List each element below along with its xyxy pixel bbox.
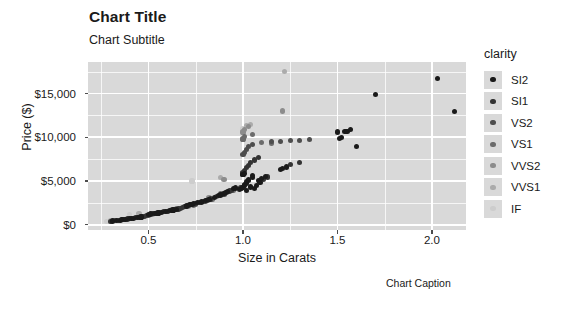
- legend-item-if[interactable]: IF: [484, 198, 562, 220]
- gridline-major-horizontal: [88, 136, 466, 138]
- data-point: [218, 192, 223, 197]
- legend-key-swatch: [484, 178, 502, 196]
- legend-key-swatch: [484, 71, 502, 89]
- legend-item-si2[interactable]: SI2: [484, 69, 562, 91]
- legend-dot-icon: [490, 185, 495, 190]
- legend-item-label: VVS2: [511, 160, 540, 172]
- data-point: [284, 164, 289, 169]
- legend-key-swatch: [484, 92, 502, 110]
- gridline-major-vertical: [337, 62, 339, 230]
- data-point: [189, 178, 194, 183]
- legend-item-label: IF: [511, 203, 521, 215]
- legend-item-label: VS1: [511, 138, 533, 150]
- legend-item-vs2[interactable]: VS2: [484, 112, 562, 134]
- data-point: [297, 138, 302, 143]
- legend-items: SI2SI1VS2VS1VVS2VVS1IF: [484, 69, 562, 220]
- x-axis-tick: [337, 230, 338, 234]
- legend-item-vvs2[interactable]: VVS2: [484, 155, 562, 177]
- legend-dot-icon: [490, 163, 495, 168]
- x-axis-tick-label: 1.0: [235, 234, 251, 246]
- legend-item-vs1[interactable]: VS1: [484, 134, 562, 156]
- gridline-major-horizontal: [88, 180, 466, 182]
- gridline-major-horizontal: [88, 93, 466, 95]
- x-axis-title: Size in Carats: [88, 251, 466, 265]
- legend-item-label: SI2: [511, 74, 528, 86]
- data-point: [138, 214, 143, 219]
- data-point: [373, 92, 378, 97]
- data-point: [242, 134, 247, 139]
- legend-title: clarity: [484, 47, 562, 61]
- legend-key-swatch: [484, 114, 502, 132]
- data-point: [348, 127, 353, 132]
- x-axis-tick: [431, 230, 432, 234]
- data-point: [237, 187, 242, 192]
- legend: clarity SI2SI1VS2VS1VVS2VVS1IF: [484, 47, 562, 220]
- data-point: [354, 144, 359, 149]
- data-point: [282, 69, 287, 74]
- data-point: [435, 76, 440, 81]
- x-axis-tick-label: 1.5: [329, 234, 345, 246]
- gridline-minor-vertical: [385, 62, 386, 230]
- gridline-minor-horizontal: [88, 115, 466, 116]
- chart-caption: Chart Caption: [386, 277, 451, 289]
- data-point: [288, 138, 293, 143]
- legend-item-label: SI1: [511, 95, 528, 107]
- data-point: [307, 137, 312, 142]
- data-point: [297, 160, 302, 165]
- data-point: [250, 142, 255, 147]
- data-point: [256, 155, 261, 160]
- chart-title: Chart Title: [89, 8, 166, 26]
- gridline-minor-horizontal: [88, 159, 466, 160]
- x-axis-tick-label: 0.5: [140, 234, 156, 246]
- x-axis-tick: [148, 230, 149, 234]
- y-axis-ticks: [78, 62, 88, 230]
- legend-dot-icon: [490, 99, 495, 104]
- legend-key-swatch: [484, 200, 502, 218]
- data-point: [221, 177, 226, 182]
- y-axis-tick-label: $0: [63, 219, 76, 231]
- x-axis-tick-labels: 0.51.01.52.0: [88, 234, 466, 252]
- legend-dot-icon: [490, 142, 495, 147]
- data-point: [335, 129, 340, 134]
- data-point: [452, 109, 457, 114]
- chart-subtitle: Chart Subtitle: [89, 33, 165, 47]
- y-axis-tick-label: $10,000: [34, 131, 76, 143]
- data-point: [278, 139, 283, 144]
- data-point: [206, 197, 211, 202]
- x-axis-tick: [242, 230, 243, 234]
- data-point: [339, 135, 344, 140]
- y-axis-tick-label: $15,000: [34, 88, 76, 100]
- gridline-minor-vertical: [290, 62, 291, 230]
- plot-panel: [88, 62, 466, 230]
- data-point: [280, 108, 285, 113]
- legend-key-swatch: [484, 135, 502, 153]
- gridline-major-vertical: [242, 62, 244, 230]
- gridline-minor-horizontal: [88, 203, 466, 204]
- legend-key-swatch: [484, 157, 502, 175]
- chart-figure: Chart Title Chart Subtitle Price ($) $0$…: [0, 0, 564, 310]
- y-axis-tick-labels: $0$5,000$10,000$15,000: [0, 62, 76, 230]
- y-axis-tick-label: $5,000: [41, 175, 76, 187]
- data-point: [244, 188, 249, 193]
- legend-item-vvs1[interactable]: VVS1: [484, 177, 562, 199]
- legend-item-label: VVS1: [511, 181, 540, 193]
- gridline-major-vertical: [148, 62, 150, 230]
- gridline-major-horizontal: [88, 224, 466, 226]
- data-point: [246, 124, 251, 129]
- x-axis-tick-label: 2.0: [424, 234, 440, 246]
- gridline-minor-horizontal: [88, 72, 466, 73]
- gridline-major-vertical: [431, 62, 433, 230]
- legend-dot-icon: [490, 77, 495, 82]
- legend-dot-icon: [490, 120, 495, 125]
- legend-item-si1[interactable]: SI1: [484, 91, 562, 113]
- data-point: [242, 171, 247, 176]
- legend-dot-icon: [490, 206, 495, 211]
- gridline-minor-vertical: [101, 62, 102, 230]
- legend-item-label: VS2: [511, 117, 533, 129]
- data-point: [259, 140, 264, 145]
